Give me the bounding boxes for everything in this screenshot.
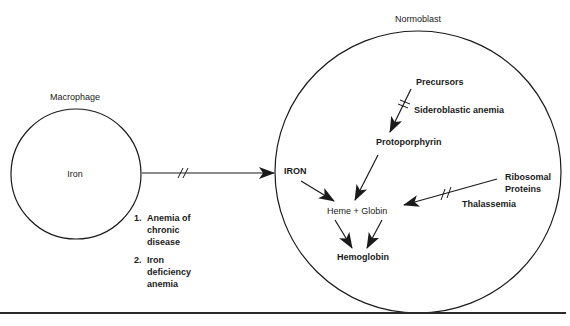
iron-label: IRON (284, 166, 307, 176)
normoblast-title: Normoblast (395, 14, 442, 24)
precursors-label: Precursors (416, 77, 464, 87)
defect-1-line1: Anemia of (147, 213, 192, 223)
defect-1-line3: disease (147, 237, 180, 247)
protoporphyrin-arrow (355, 155, 378, 200)
defect-2-line3: anemia (147, 279, 179, 289)
macrophage-iron-label: Iron (67, 169, 83, 179)
protoporphyrin-label: Protoporphyrin (376, 137, 442, 147)
hemoglobin-label: Hemoglobin (337, 252, 389, 262)
macrophage-title: Macrophage (50, 92, 100, 102)
precursors-arrow (390, 89, 411, 132)
defect-1-number: 1. (134, 213, 142, 223)
thalassemia-label: Thalassemia (462, 199, 517, 209)
defect-2-number: 2. (134, 255, 142, 265)
iron-metabolism-diagram: Macrophage Normoblast Iron 1. Anemia of … (0, 0, 570, 326)
defect-2-line1: Iron (147, 255, 164, 265)
heme-to-hemoglobin-arrow (335, 220, 352, 248)
sideroblastic-anemia-label: Sideroblastic anemia (414, 105, 505, 115)
iron-arrow (301, 181, 334, 201)
ribosomal-label-line1: Ribosomal (505, 172, 551, 182)
ribosomal-label-line2: Proteins (505, 184, 541, 194)
defect-list: 1. Anemia of chronic disease 2. Iron def… (134, 213, 192, 289)
heme-globin-label: Heme + Globin (327, 206, 387, 216)
defect-2-line2: deficiency (147, 267, 191, 277)
globin-to-hemoglobin-arrow (367, 220, 382, 248)
defect-1-line2: chronic (147, 225, 180, 235)
